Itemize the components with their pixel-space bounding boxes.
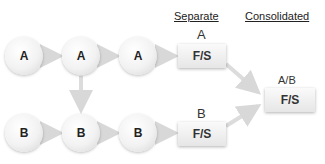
fs-b-box: F/S [178, 122, 226, 146]
node-a-2: A [62, 37, 100, 75]
fs-b-label: B [197, 106, 206, 121]
arrows-layer [0, 0, 325, 164]
node-b-1: B [5, 114, 43, 152]
node-b-3: B [119, 114, 157, 152]
consolidated-label: A/B [278, 74, 296, 86]
fs-a-label: A [197, 27, 206, 42]
fs-a-box: F/S [178, 44, 226, 68]
node-a-1: A [5, 37, 43, 75]
node-a-3: A [119, 37, 157, 75]
header-consolidated: Consolidated [245, 10, 309, 22]
node-b-2: B [62, 114, 100, 152]
consolidated-box: F/S [265, 88, 315, 112]
header-separate: Separate [174, 10, 219, 22]
